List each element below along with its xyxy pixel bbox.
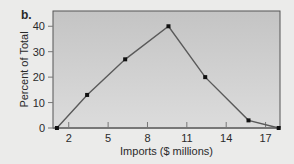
x-tick-label: 5	[105, 132, 111, 144]
x-tick-label: 17	[259, 132, 271, 144]
panel-label: b.	[21, 8, 32, 22]
x-tick-label: 8	[144, 132, 150, 144]
y-axis-title: Percent of Total	[18, 31, 30, 107]
y-tick-label: 30	[33, 46, 45, 58]
x-tick-label: 11	[181, 132, 192, 144]
data-point	[203, 75, 207, 79]
x-tick-label: 14	[220, 132, 232, 144]
data-point	[247, 118, 251, 122]
data-point	[55, 126, 59, 130]
y-tick-label: 40	[33, 20, 45, 32]
x-tick-label: 2	[66, 132, 72, 144]
data-point	[123, 57, 127, 61]
y-axis: 010203040	[33, 20, 53, 134]
y-tick-label: 20	[33, 71, 45, 83]
data-point	[277, 126, 281, 130]
line-chart: b. 010203040 258111417 Imports ($ millio…	[0, 0, 294, 164]
x-axis-title: Imports ($ millions)	[120, 145, 213, 157]
data-point	[166, 24, 170, 28]
y-tick-label: 10	[33, 97, 45, 109]
y-tick-label: 0	[39, 122, 45, 134]
data-point	[85, 93, 89, 97]
